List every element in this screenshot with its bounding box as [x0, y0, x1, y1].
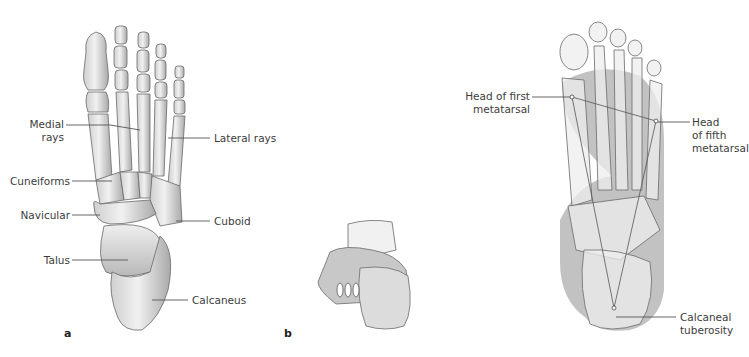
label-talus: Talus — [4, 254, 70, 267]
point-head-first-metatarsal — [570, 95, 574, 99]
foot-skeleton-posterior — [318, 220, 410, 329]
foot-skeleton-dorsal — [84, 26, 186, 330]
label-cuboid: Cuboid — [214, 215, 251, 228]
label-medial-rays: Medial rays — [20, 118, 64, 144]
panel-letter-b: b — [284, 327, 292, 340]
label-calcaneal-tuberosity: Calcaneal tuberosity — [680, 311, 733, 337]
label-head-first-metatarsal: Head of first metatarsal — [452, 90, 530, 116]
foot-plantar-view — [532, 22, 690, 331]
label-head-fifth-line3: metatarsal — [692, 142, 749, 155]
label-calcaneal-line2: tuberosity — [680, 324, 733, 337]
label-lateral-rays: Lateral rays — [214, 132, 276, 145]
label-head-fifth-metatarsal: Head of fifth metatarsal — [692, 116, 749, 155]
label-head-first-line2: metatarsal — [452, 103, 530, 116]
point-head-fifth-metatarsal — [654, 119, 658, 123]
label-head-fifth-line1: Head — [692, 116, 749, 129]
panel-letter-a: a — [64, 327, 71, 340]
label-head-fifth-line2: of fifth — [692, 129, 749, 142]
label-calcaneus: Calcaneus — [192, 294, 246, 307]
figure-artwork — [0, 0, 749, 357]
label-head-first-line1: Head of first — [452, 90, 530, 103]
tarsal-bones — [94, 172, 182, 330]
label-medial-rays-line2: rays — [20, 131, 64, 144]
label-medial-rays-line1: Medial — [20, 118, 64, 131]
label-calcaneal-line1: Calcaneal — [680, 311, 733, 324]
point-calcaneal-tuberosity — [612, 306, 616, 310]
label-cuneiforms: Cuneiforms — [4, 175, 70, 188]
label-navicular: Navicular — [4, 209, 70, 222]
phalanges — [84, 26, 186, 114]
